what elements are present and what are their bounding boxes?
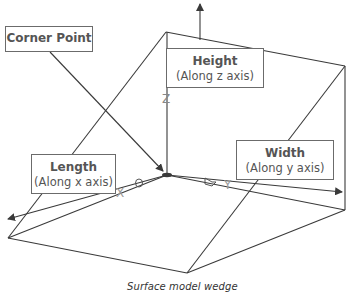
height-callout: Height (Along z axis) [166, 48, 264, 88]
corner-point-callout: Corner Point [5, 26, 93, 52]
length-callout: Length (Along x axis) [31, 154, 116, 194]
length-subtitle: (Along x axis) [32, 175, 115, 190]
y-axis-label: Y [224, 178, 231, 192]
height-subtitle: (Along z axis) [167, 69, 263, 84]
height-title: Height [167, 54, 263, 69]
figure-caption: Surface model wedge [127, 281, 238, 292]
origin-marker [162, 173, 172, 177]
width-callout: Width (Along y axis) [236, 140, 334, 180]
length-title: Length [32, 160, 115, 175]
z-axis-label: Z [162, 92, 170, 106]
width-subtitle: (Along y axis) [237, 161, 333, 176]
width-title: Width [237, 146, 333, 161]
x-axis-label: X [116, 186, 124, 200]
corner-point-title: Corner Point [6, 31, 92, 46]
